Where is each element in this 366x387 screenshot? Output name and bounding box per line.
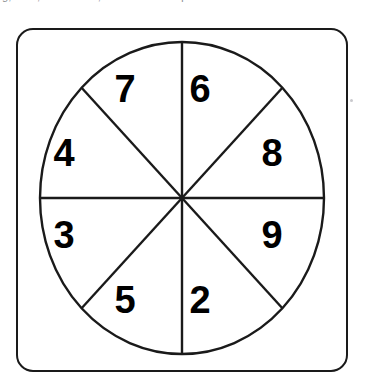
sector-label-right-upper: 8 <box>252 134 292 172</box>
sector-label-bottom-right: 2 <box>180 281 220 319</box>
clipped-caption-text: g, and , in the area, to the nearest qua… <box>0 0 366 9</box>
sector-label-right-lower: 9 <box>252 216 292 254</box>
sector-label-left-upper: 4 <box>44 134 84 172</box>
page-canvas: g, and , in the area, to the nearest qua… <box>0 0 366 387</box>
sector-label-top-left: 7 <box>105 70 145 108</box>
sector-label-bottom-left: 5 <box>105 281 145 319</box>
clipped-caption-label: g, and , in the area, to the nearest qua… <box>2 0 216 2</box>
sector-label-top-right: 6 <box>180 70 220 108</box>
sector-label-left-lower: 3 <box>44 216 84 254</box>
scan-artifact-speckle <box>350 99 353 102</box>
